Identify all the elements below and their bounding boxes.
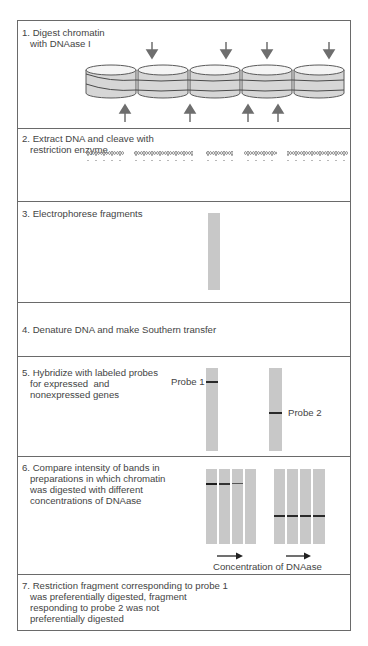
probe-1-label: Probe 1 <box>171 376 205 387</box>
nucleosome-icon <box>242 65 292 98</box>
dnaase-arrow-down-icon <box>262 42 272 58</box>
step-4-text: 4. Denature DNA and make Southern transf… <box>22 324 216 335</box>
band-probe1-1 <box>206 483 217 485</box>
gel-lane <box>208 213 220 290</box>
dnaase-arrow-up-icon <box>243 105 253 122</box>
divider-5-6 <box>17 456 351 457</box>
divider-6-7 <box>17 574 351 575</box>
dna-fragments-diagram <box>0 148 368 164</box>
arrow-right-icon <box>286 553 311 560</box>
step-5-text: 5. Hybridize with labeled probes for exp… <box>22 367 158 400</box>
concentration-label: Concentration of DNAase <box>213 561 322 572</box>
gel-lane-probe2-3 <box>300 469 311 544</box>
step-6-text: 6. Compare intensity of bands in prepara… <box>22 462 165 506</box>
probe-1-band <box>206 381 218 383</box>
dnaase-arrow-up-icon <box>185 105 195 122</box>
nucleosome-icon <box>190 65 240 98</box>
band-probe2-1 <box>274 515 285 517</box>
nucleosome-icon <box>138 65 188 98</box>
dnaase-arrow-down-icon <box>147 42 157 58</box>
band-probe2-4 <box>313 515 325 517</box>
band-probe1-3 <box>232 483 243 484</box>
dna-fragment-icon <box>86 151 124 161</box>
dnaase-arrow-up-icon <box>120 105 130 122</box>
divider-4-5 <box>17 356 351 357</box>
dnaase-arrow-up-icon <box>273 105 283 122</box>
dnaase-arrow-down-icon <box>221 42 231 58</box>
nucleosome-chain-diagram <box>0 0 368 130</box>
gel-lane-probe2-2 <box>287 469 298 544</box>
dna-fragment-icon <box>206 151 233 161</box>
probe-2-lane <box>269 368 282 451</box>
dna-fragment-icon <box>134 151 193 161</box>
step-7-text: 7. Restriction fragment corresponding to… <box>22 580 228 624</box>
probe-2-label: Probe 2 <box>288 407 322 418</box>
band-probe2-3 <box>300 515 311 517</box>
gel-lane-probe1-2 <box>219 469 230 544</box>
nucleosome-icon <box>86 65 136 98</box>
gel-lane-probe1-3 <box>232 469 243 544</box>
probe-2-band <box>269 412 282 414</box>
gel-lane-probe1-4 <box>245 469 256 544</box>
divider-3-4 <box>17 302 351 303</box>
gel-lane-probe2-4 <box>313 469 325 544</box>
dna-fragment-icon <box>287 151 348 161</box>
nucleosome-icon <box>294 65 344 98</box>
divider-2-3 <box>17 201 351 202</box>
gel-lane-probe1-1 <box>206 469 217 544</box>
dna-fragment-icon <box>244 151 277 161</box>
arrow-right-icon <box>217 553 243 560</box>
band-probe2-2 <box>287 515 298 517</box>
band-probe1-2 <box>219 483 230 485</box>
dnaase-arrow-down-icon <box>324 42 334 58</box>
gel-lane-probe2-1 <box>274 469 285 544</box>
step-3-text: 3. Electrophorese fragments <box>22 208 143 219</box>
